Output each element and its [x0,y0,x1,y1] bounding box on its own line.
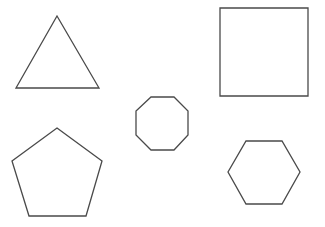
shapes-canvas [0,0,325,227]
square-shape [220,8,308,96]
octagon-shape [136,97,188,150]
